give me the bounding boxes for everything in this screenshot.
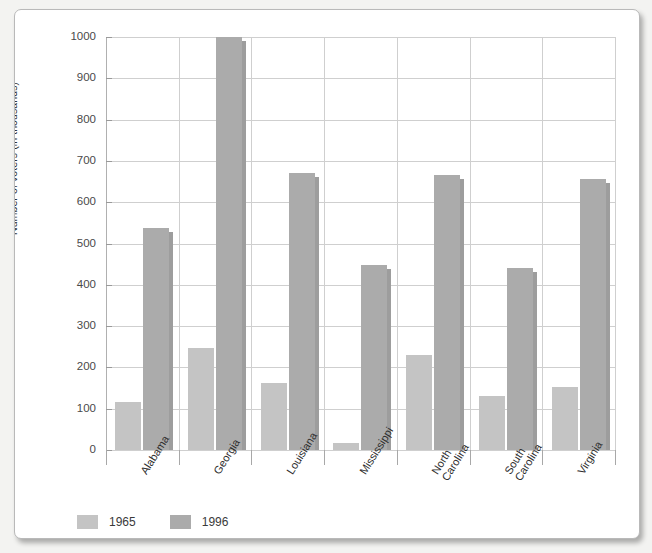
y-tick-label-200: 200 — [50, 361, 96, 372]
x-tick-mark-1 — [179, 450, 180, 465]
gridline-y-800 — [106, 120, 615, 121]
bar-drop-shadow — [315, 177, 319, 450]
bar-georgia-1965 — [188, 348, 214, 450]
gridline-x-7 — [615, 37, 616, 450]
bar-drop-shadow — [606, 183, 610, 450]
bar-north-carolina-1965 — [406, 355, 432, 450]
y-tick-label-100: 100 — [50, 403, 96, 414]
y-tick-mark-200 — [106, 367, 112, 368]
y-tick-mark-600 — [106, 202, 112, 203]
y-tick-mark-1000 — [106, 37, 112, 38]
gridline-x-3 — [324, 37, 325, 450]
y-tick-label-900: 900 — [50, 72, 96, 83]
legend-swatch-1996 — [170, 515, 191, 529]
bar-north-carolina-1996 — [434, 175, 460, 450]
chart-sheet: 10009008007006005004003002001000 Number … — [14, 9, 640, 539]
bar-body — [406, 355, 432, 450]
bar-body — [552, 387, 578, 450]
y-tick-mark-800 — [106, 120, 112, 121]
bar-virginia-1965 — [552, 387, 578, 450]
bar-drop-shadow — [387, 269, 391, 450]
gridline-x-6 — [542, 37, 543, 450]
bar-body — [143, 228, 169, 450]
x-tick-mark-5 — [470, 450, 471, 465]
bar-alabama-1965 — [115, 402, 141, 450]
legend-label-1996: 1996 — [202, 515, 229, 529]
legend-swatch-1965 — [77, 515, 98, 529]
bar-mississippi-1996 — [361, 265, 387, 450]
y-tick-label-0: 0 — [50, 444, 96, 455]
bar-georgia-1996 — [216, 37, 242, 450]
bar-drop-shadow — [460, 179, 464, 450]
bar-south-carolina-1996 — [507, 268, 533, 450]
bar-body — [333, 443, 359, 450]
y-tick-mark-300 — [106, 326, 112, 327]
bar-virginia-1996 — [580, 179, 606, 450]
bar-body — [434, 175, 460, 450]
y-tick-label-1000: 1000 — [50, 31, 96, 42]
y-tick-label-700: 700 — [50, 155, 96, 166]
y-tick-label-300: 300 — [50, 320, 96, 331]
y-axis-title: Number of voters (in thousands) — [14, 35, 19, 235]
bar-louisiana-1965 — [261, 383, 287, 450]
y-tick-label-600: 600 — [50, 196, 96, 207]
plot-area: 10009008007006005004003002001000 — [106, 37, 615, 450]
bar-body — [580, 179, 606, 450]
gridline-x-4 — [397, 37, 398, 450]
x-tick-mark-7 — [615, 450, 616, 465]
bar-body — [361, 265, 387, 450]
legend-label-1965: 1965 — [109, 515, 136, 529]
bar-mississippi-1965 — [333, 443, 359, 450]
bar-body — [289, 173, 315, 450]
bar-body — [261, 383, 287, 450]
legend-item-1965[interactable]: 1965 — [77, 515, 170, 529]
y-tick-mark-900 — [106, 78, 112, 79]
gridline-y-600 — [106, 202, 615, 203]
y-tick-mark-700 — [106, 161, 112, 162]
bar-body — [216, 37, 242, 450]
y-tick-label-500: 500 — [50, 238, 96, 249]
chart-page: 10009008007006005004003002001000 Number … — [0, 0, 652, 553]
chart-legend: 19651996 — [77, 515, 262, 529]
bar-south-carolina-1965 — [479, 396, 505, 450]
x-tick-mark-3 — [324, 450, 325, 465]
y-tick-mark-100 — [106, 409, 112, 410]
bar-louisiana-1996 — [289, 173, 315, 450]
gridline-y-700 — [106, 161, 615, 162]
gridline-y-1000 — [106, 37, 615, 38]
y-tick-mark-400 — [106, 285, 112, 286]
y-tick-label-800: 800 — [50, 114, 96, 125]
bar-drop-shadow — [169, 232, 173, 450]
x-tick-mark-6 — [542, 450, 543, 465]
gridline-x-2 — [251, 37, 252, 450]
bar-body — [507, 268, 533, 450]
bar-body — [479, 396, 505, 450]
gridline-x-5 — [470, 37, 471, 450]
gridline-y-500 — [106, 244, 615, 245]
legend-item-1996[interactable]: 1996 — [170, 515, 263, 529]
gridline-x-1 — [179, 37, 180, 450]
bar-drop-shadow — [533, 272, 537, 450]
x-tick-mark-4 — [397, 450, 398, 465]
bar-body — [115, 402, 141, 450]
x-tick-mark-0 — [106, 450, 107, 465]
y-tick-label-400: 400 — [50, 279, 96, 290]
y-tick-mark-500 — [106, 244, 112, 245]
gridline-y-900 — [106, 78, 615, 79]
bar-body — [188, 348, 214, 450]
x-tick-mark-2 — [251, 450, 252, 465]
bar-alabama-1996 — [143, 228, 169, 450]
bar-drop-shadow — [242, 41, 246, 450]
